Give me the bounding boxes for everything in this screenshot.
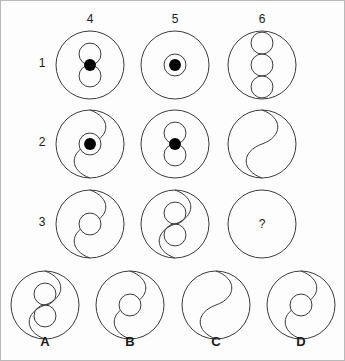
column-header-6: 6 xyxy=(250,12,274,26)
matrix-cell-r2c6 xyxy=(226,108,298,180)
row-header-3: 3 xyxy=(34,215,50,229)
answer-option-a[interactable] xyxy=(9,269,81,341)
matrix-cell-r3c4 xyxy=(54,188,126,260)
answer-option-d[interactable] xyxy=(265,269,337,341)
matrix-reasoning-puzzle: 456 123 ? ABCD xyxy=(0,0,345,361)
row-header-1: 1 xyxy=(34,56,50,70)
answer-option-label-b[interactable]: B xyxy=(118,334,142,349)
answer-option-label-a[interactable]: A xyxy=(33,334,57,349)
matrix-cell-r1c4 xyxy=(54,29,126,101)
column-header-4: 4 xyxy=(78,12,102,26)
matrix-cell-r1c5 xyxy=(139,29,211,101)
answer-option-b[interactable] xyxy=(94,269,166,341)
missing-tile-placeholder: ? xyxy=(226,188,298,260)
answer-option-label-d[interactable]: D xyxy=(289,334,313,349)
matrix-cell-r1c6 xyxy=(226,29,298,101)
svg-text:?: ? xyxy=(259,217,266,231)
matrix-cell-r2c5 xyxy=(139,108,211,180)
row-header-2: 2 xyxy=(34,135,50,149)
matrix-cell-r3c5 xyxy=(139,188,211,260)
answer-option-c[interactable] xyxy=(180,269,252,341)
column-header-5: 5 xyxy=(163,12,187,26)
answer-option-label-c[interactable]: C xyxy=(204,334,228,349)
matrix-cell-r2c4 xyxy=(54,108,126,180)
